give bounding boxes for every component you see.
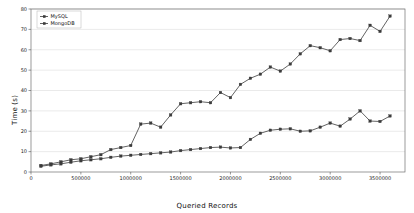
y-tick-label: 60 (21, 47, 27, 53)
data-point (389, 15, 392, 18)
data-point (389, 115, 392, 118)
legend-marker (43, 15, 46, 18)
data-point (239, 146, 242, 149)
data-point (119, 146, 122, 149)
data-point (50, 164, 53, 167)
data-point (379, 30, 382, 33)
data-point (329, 49, 332, 52)
data-point (169, 114, 172, 117)
data-point (169, 151, 172, 154)
data-point (319, 126, 322, 129)
data-point (319, 46, 322, 49)
data-point (289, 63, 292, 66)
data-point (129, 144, 132, 147)
data-point (279, 128, 282, 131)
data-point (309, 130, 312, 133)
data-point (369, 120, 372, 123)
series-line-mongodb (41, 111, 390, 166)
x-tick-label: 1500000 (169, 175, 191, 181)
data-point (289, 128, 292, 131)
data-point (249, 77, 252, 80)
data-point (259, 132, 262, 135)
data-point (179, 102, 182, 105)
data-point (139, 123, 142, 126)
line-chart: 0102030405060708005000001000000150000020… (0, 0, 414, 213)
data-point (199, 147, 202, 150)
data-point (259, 73, 262, 76)
data-point (339, 38, 342, 41)
data-point (349, 118, 352, 121)
data-point (239, 83, 242, 86)
chart-canvas: 0102030405060708005000001000000150000020… (0, 0, 414, 213)
data-point (70, 158, 73, 161)
x-tick-label: 500000 (71, 175, 90, 181)
data-point (329, 122, 332, 125)
data-point (299, 130, 302, 133)
data-point (359, 110, 362, 113)
data-point (209, 146, 212, 149)
data-point (229, 147, 232, 150)
data-point (129, 154, 132, 157)
data-point (159, 152, 162, 155)
y-tick-label: 20 (21, 128, 27, 134)
data-point (229, 96, 232, 99)
data-point (299, 53, 302, 56)
data-point (40, 165, 43, 168)
data-point (309, 44, 312, 47)
data-point (219, 146, 222, 149)
y-tick-label: 10 (21, 148, 27, 154)
data-point (149, 152, 152, 155)
data-point (189, 101, 192, 104)
data-point (90, 158, 93, 161)
data-point (269, 129, 272, 132)
data-point (70, 161, 73, 164)
data-point (269, 66, 272, 69)
data-point (279, 70, 282, 73)
data-point (369, 24, 372, 27)
data-point (219, 91, 222, 94)
data-point (109, 156, 112, 159)
data-point (189, 148, 192, 151)
data-point (60, 163, 63, 166)
legend-label: MySQL (51, 13, 68, 20)
data-point (139, 153, 142, 156)
data-point (159, 126, 162, 129)
x-tick-label: 0 (29, 175, 32, 181)
data-point (199, 100, 202, 103)
x-tick-label: 3000000 (319, 175, 341, 181)
data-point (179, 149, 182, 152)
data-point (209, 101, 212, 104)
series-line-mysql (41, 16, 390, 165)
data-point (359, 39, 362, 42)
y-tick-label: 40 (21, 87, 27, 93)
y-tick-label: 0 (24, 169, 27, 175)
x-axis-title: Queried Records (0, 202, 414, 210)
data-point (349, 37, 352, 40)
y-axis-title: Time (s) (11, 95, 19, 125)
data-point (100, 157, 103, 160)
y-tick-label: 70 (21, 26, 27, 32)
x-tick-label: 2000000 (219, 175, 241, 181)
data-point (379, 120, 382, 123)
legend-marker (43, 22, 46, 25)
y-tick-label: 80 (21, 6, 27, 12)
data-point (149, 122, 152, 125)
legend-label: MongoDB (51, 20, 76, 27)
data-point (249, 138, 252, 141)
data-point (80, 159, 83, 162)
data-point (100, 153, 103, 156)
data-point (339, 125, 342, 128)
x-tick-label: 2500000 (269, 175, 291, 181)
x-tick-label: 3500000 (369, 175, 391, 181)
y-tick-label: 50 (21, 67, 27, 73)
data-point (109, 148, 112, 151)
y-tick-label: 30 (21, 108, 27, 114)
data-point (119, 155, 122, 158)
x-tick-label: 1000000 (120, 175, 142, 181)
data-point (90, 155, 93, 158)
